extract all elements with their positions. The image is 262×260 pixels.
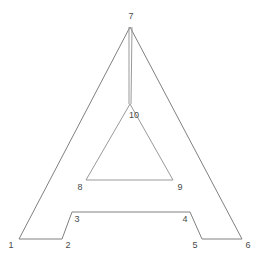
vertex-label-7: 7 [128,12,133,21]
vertex-label-2: 2 [65,241,70,250]
vertex-label-4: 4 [182,215,187,224]
letter-a-polygon-graphic [0,0,262,260]
vertex-label-5: 5 [192,241,197,250]
vertex-label-8: 8 [77,183,82,192]
stem-right-line [131,27,132,104]
vertex-label-3: 3 [74,215,79,224]
diagram-canvas: 1 2 3 4 5 6 7 8 9 10 [0,0,262,260]
vertex-label-1: 1 [8,241,13,250]
vertex-label-9: 9 [177,183,182,192]
letter-a-outer-outline [19,27,242,239]
vertex-label-6: 6 [245,241,250,250]
vertex-label-10: 10 [129,111,139,120]
